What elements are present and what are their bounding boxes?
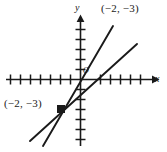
point-coordinate-label-lower: (−2, −3) bbox=[4, 97, 42, 109]
intersection-point-marker bbox=[57, 105, 65, 113]
y-axis-label: y bbox=[75, 2, 79, 13]
x-axis-label: x bbox=[155, 73, 159, 84]
origin-label: O bbox=[83, 66, 89, 75]
line-shallow bbox=[30, 44, 137, 141]
y-axis-arrowhead bbox=[77, 15, 85, 23]
line-steep bbox=[43, 26, 113, 146]
graph-canvas bbox=[0, 0, 167, 152]
point-coordinate-label-upper: (−2, −3) bbox=[101, 2, 139, 14]
coordinate-plane-figure: (−2, −3) (−2, −3) x y O bbox=[0, 0, 167, 152]
